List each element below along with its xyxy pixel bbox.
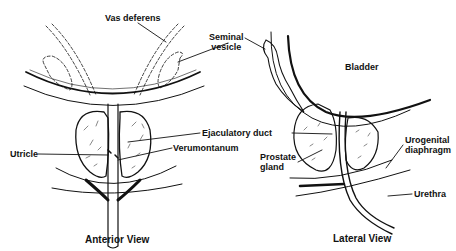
label-prostate-gland-line1: Prostate bbox=[260, 152, 296, 162]
label-verumontanum: Verumontanum bbox=[173, 143, 239, 153]
anatomy-diagram: Vas deferens Seminal vesicle Bladder Eja… bbox=[0, 0, 456, 251]
label-urogenital-diaphragm-line2: diaphragm bbox=[405, 145, 451, 155]
label-urogenital-diaphragm: Urogenital diaphragm bbox=[405, 135, 451, 155]
label-bladder: Bladder bbox=[345, 62, 379, 72]
anterior-view-title: Anterior View bbox=[85, 234, 149, 245]
label-urethra: Urethra bbox=[414, 189, 446, 199]
label-ejaculatory-duct: Ejaculatory duct bbox=[202, 128, 272, 138]
label-seminal-vesicle-line2: vesicle bbox=[209, 42, 244, 52]
label-seminal-vesicle-line1: Seminal bbox=[209, 32, 244, 42]
label-prostate-gland: Prostate gland bbox=[260, 152, 296, 172]
lateral-view-title: Lateral View bbox=[333, 233, 391, 244]
label-prostate-gland-line2: gland bbox=[260, 162, 296, 172]
label-utricle: Utricle bbox=[10, 149, 38, 159]
label-urogenital-diaphragm-line1: Urogenital bbox=[405, 135, 451, 145]
label-vas-deferens: Vas deferens bbox=[105, 13, 161, 23]
label-seminal-vesicle: Seminal vesicle bbox=[209, 32, 244, 52]
